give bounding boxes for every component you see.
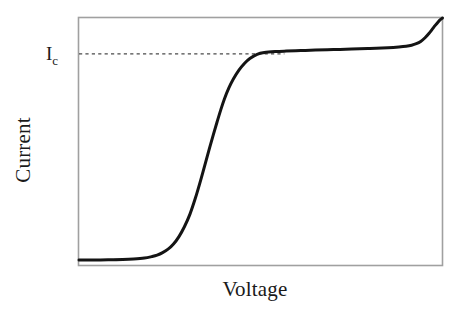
figure-container: Ic Current Voltage — [0, 0, 460, 316]
y-axis-title: Current — [11, 117, 35, 183]
critical-current-subscript: c — [52, 53, 58, 68]
iv-characteristic-chart: Ic Current Voltage — [0, 0, 460, 316]
x-axis-title: Voltage — [222, 277, 287, 301]
